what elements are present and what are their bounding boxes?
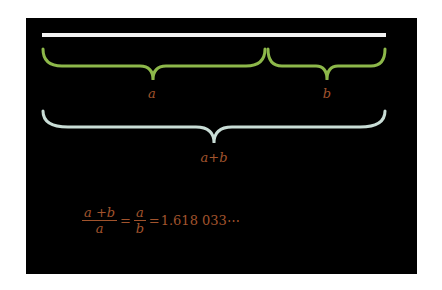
golden-ratio-formula: a +b a = a b = 1.618 033⋯	[80, 205, 240, 236]
fraction-a-plus-b-over-a: a +b a	[82, 205, 117, 236]
brace-a-plus-b	[43, 111, 385, 143]
golden-ratio-diagram	[0, 0, 442, 290]
equals-sign: =	[120, 213, 131, 228]
equals-sign: =	[149, 213, 160, 228]
denominator: a	[96, 221, 104, 236]
label-a: a	[148, 86, 156, 101]
fraction-a-over-b: a b	[134, 205, 146, 236]
brace-a	[43, 49, 265, 80]
label-a-plus-b: a+b	[201, 150, 228, 165]
brace-b	[268, 49, 385, 80]
golden-ratio-value: 1.618 033⋯	[161, 213, 240, 228]
numerator: a	[134, 205, 146, 221]
denominator: b	[136, 221, 144, 236]
label-b: b	[323, 86, 331, 101]
numerator: a +b	[82, 205, 117, 221]
